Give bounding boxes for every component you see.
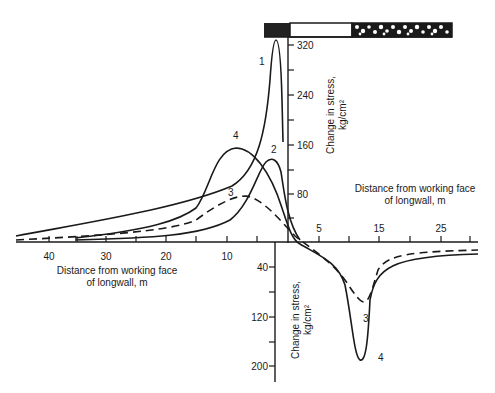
svg-text:40: 40 [257, 262, 269, 273]
svg-text:25: 25 [435, 223, 447, 234]
open-goaf-block [290, 23, 352, 37]
strata-bar [264, 23, 452, 37]
y-axis-title-upper-line1: Change in stress, [325, 76, 336, 154]
stress-chart: 40 30 20 10 5 15 25 320 240 160 80 40 12… [0, 0, 495, 393]
curve-label-3: 3 [228, 187, 234, 198]
svg-text:30: 30 [100, 251, 112, 262]
axes [16, 37, 478, 382]
curve-label-2: 2 [271, 144, 277, 155]
svg-text:20: 20 [160, 251, 172, 262]
svg-text:80: 80 [297, 189, 309, 200]
x-axis-title-left-line1: Distance from working face [57, 265, 178, 276]
svg-text:10: 10 [221, 251, 233, 262]
x-axis-title-left-line2: of longwall, m [86, 277, 147, 288]
svg-text:160: 160 [297, 140, 314, 151]
y-tick-labels-upper: 320 240 160 80 [297, 40, 314, 200]
curve-label-1: 1 [259, 56, 265, 67]
svg-text:320: 320 [297, 40, 314, 51]
y-tick-labels-lower: 40 120 200 [251, 262, 268, 372]
x-axis-title-right-line2: of longwall, m [384, 195, 445, 206]
svg-text:200: 200 [251, 361, 268, 372]
x-axis-title-right-line1: Distance from working face [355, 183, 476, 194]
curve-4 [75, 148, 478, 360]
curve-label-4-lower: 4 [378, 352, 384, 363]
svg-text:5: 5 [316, 223, 322, 234]
curve-label-4: 4 [233, 130, 239, 141]
y-ticks-lower [269, 267, 275, 366]
svg-text:240: 240 [297, 90, 314, 101]
caved-rock-block [352, 23, 452, 37]
y-ticks-upper [288, 45, 294, 218]
svg-text:40: 40 [43, 251, 55, 262]
curve-label-3-lower: 3 [363, 313, 369, 324]
svg-text:120: 120 [251, 312, 268, 323]
y-axis-title-lower-line1: Change in stress, [290, 281, 301, 359]
curve-3 [16, 196, 478, 302]
y-axis-title-lower-line2: kg/cm² [302, 304, 313, 335]
svg-text:15: 15 [373, 223, 385, 234]
coal-seam-block [264, 23, 290, 37]
y-axis-title-upper-line2: kg/cm² [337, 99, 348, 130]
